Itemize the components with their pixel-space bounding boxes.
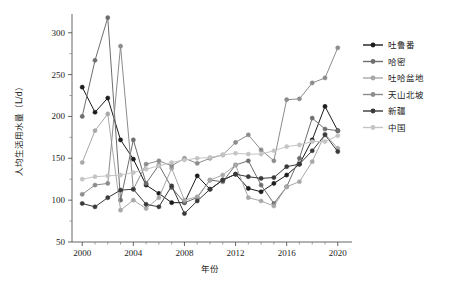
legend-swatch-marker [371,109,376,114]
data-point [106,112,110,116]
data-point [208,155,212,159]
data-point [195,174,199,178]
data-point [195,195,199,199]
data-point [233,151,237,155]
data-point [157,164,161,168]
data-point [170,160,174,164]
y-tick-label: 100 [52,195,66,205]
data-point [93,205,97,209]
data-point [195,199,199,203]
data-point [221,153,225,157]
data-point [106,96,110,100]
data-point [93,175,97,179]
data-point [310,149,314,153]
data-point [208,187,212,191]
data-point [285,173,289,177]
legend-label: 中国 [388,123,406,133]
data-point [118,188,122,192]
data-point [272,149,276,153]
data-point [170,201,174,205]
data-point [323,139,327,143]
data-point [118,138,122,142]
data-point [323,76,327,80]
data-point [106,181,110,185]
data-point [221,178,225,182]
data-point [336,46,340,50]
data-point [246,159,250,163]
data-point [131,187,135,191]
x-tick-label: 2008 [175,248,194,258]
data-point [246,175,250,179]
data-point [80,177,84,181]
data-point [323,133,327,137]
data-point [93,183,97,187]
data-point [144,167,148,171]
data-point [93,110,97,114]
data-point [297,143,301,147]
data-point [106,196,110,200]
data-point [259,148,263,152]
x-tick-label: 2012 [227,248,245,258]
legend-label: 天山北坡 [388,90,424,100]
data-point [259,190,263,194]
data-point [118,173,122,177]
y-axis-title: 人均生活用水量（L/d） [14,82,24,176]
data-point [144,181,148,185]
data-point [336,134,340,138]
legend-swatch-marker [371,125,376,130]
data-point [208,178,212,182]
data-point [246,196,250,200]
y-tick-label: 150 [52,153,66,163]
data-point [182,198,186,202]
x-tick-label: 2020 [329,248,348,258]
data-point [131,170,135,174]
data-point [272,175,276,179]
data-point [259,199,263,203]
data-point [297,97,301,101]
data-point [106,16,110,20]
data-point [285,165,289,169]
data-point [93,129,97,133]
data-point [131,198,135,202]
legend-label: 哈密 [388,57,406,67]
data-point [272,204,276,208]
data-point [233,140,237,144]
data-point [80,201,84,205]
data-point [157,205,161,209]
y-tick-label: 200 [52,111,66,121]
legend-swatch-marker [371,92,376,97]
data-point [157,159,161,163]
data-point [80,160,84,164]
data-point [80,192,84,196]
x-tick-label: 2004 [124,248,143,258]
y-tick-label: 250 [52,70,66,80]
data-point [221,173,225,177]
data-point [118,44,122,48]
data-point [323,104,327,108]
data-point [106,174,110,178]
data-point [195,161,199,165]
legend-swatch-marker [371,76,376,81]
x-tick-label: 2016 [278,248,297,258]
figure-caption [0,288,452,297]
data-point [144,162,148,166]
y-tick-label: 300 [52,28,66,38]
data-point [259,152,263,156]
data-point [285,144,289,148]
data-point [310,139,314,143]
legend-label: 新疆 [388,106,406,116]
data-point [310,160,314,164]
data-point [336,129,340,133]
y-tick-label: 50 [56,237,66,247]
legend-swatch-marker [371,43,376,48]
data-point [272,159,276,163]
data-point [195,156,199,160]
data-point [93,58,97,62]
data-point [170,184,174,188]
data-point [118,208,122,212]
line-chart: 5010015020025030020002004200820122016202… [0,0,452,297]
data-point [285,185,289,189]
data-point [246,186,250,190]
data-point [182,211,186,215]
data-point [182,158,186,162]
